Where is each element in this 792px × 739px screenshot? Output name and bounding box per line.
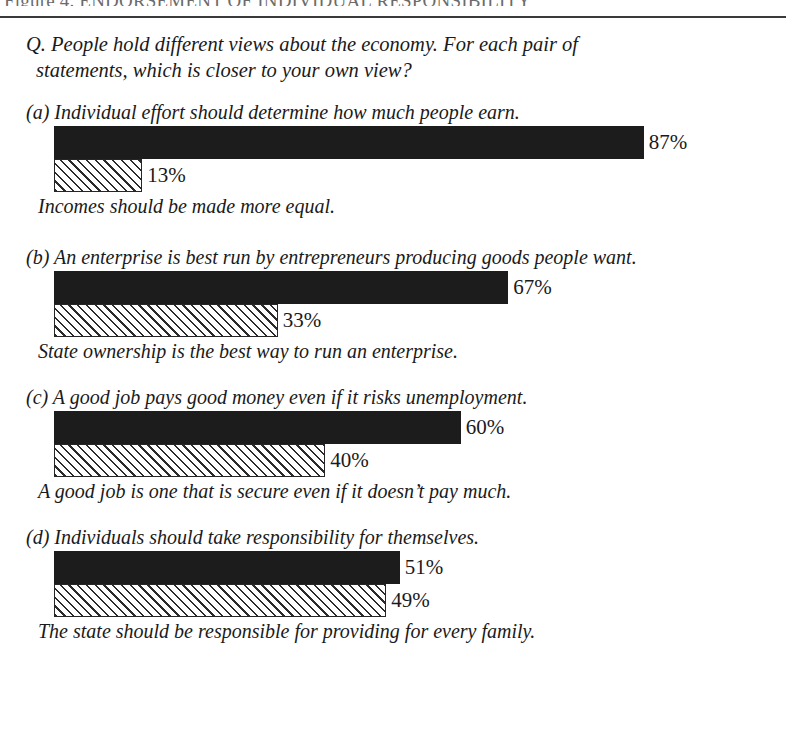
panel-c-bottom-bar-row: 40% xyxy=(54,444,369,477)
panel-a-top-bar xyxy=(54,126,644,159)
panel-c: (c) A good job pays good money even if i… xyxy=(26,385,786,503)
panel-c-bar-chart: 60% 40% xyxy=(54,411,786,479)
title-divider-rule xyxy=(0,16,786,18)
panel-a-bottom-statement: Incomes should be made more equal. xyxy=(26,194,786,218)
panel-a-top-bar-label: 87% xyxy=(644,132,688,153)
panel-d: (d) Individuals should take responsibili… xyxy=(26,525,786,643)
panel-c-top-bar-row: 60% xyxy=(54,411,504,444)
panel-b-top-bar xyxy=(54,271,508,304)
panel-a-bottom-bar-label: 13% xyxy=(142,165,186,186)
panel-a-top-bar-row: 87% xyxy=(54,126,687,159)
question-line-2: statements, which is closer to your own … xyxy=(26,57,726,83)
panel-a-bar-chart: 87% 13% xyxy=(54,126,786,194)
panel-b-bottom-bar xyxy=(54,304,278,337)
panel-d-top-bar xyxy=(54,551,400,584)
panel-d-top-bar-label: 51% xyxy=(400,557,444,578)
panel-a-bottom-bar xyxy=(54,159,142,192)
panel-a: (a) Individual effort should determine h… xyxy=(26,100,786,218)
panel-b-bottom-statement: State ownership is the best way to run a… xyxy=(26,339,786,363)
panel-b: (b) An enterprise is best run by entrepr… xyxy=(26,245,786,363)
panel-d-bottom-statement: The state should be responsible for prov… xyxy=(26,619,786,643)
panel-c-bottom-bar-label: 40% xyxy=(325,450,369,471)
panel-b-bottom-bar-row: 33% xyxy=(54,304,321,337)
panel-d-top-bar-row: 51% xyxy=(54,551,443,584)
question-line-1: Q. People hold different views about the… xyxy=(26,33,578,55)
survey-question: Q. People hold different views about the… xyxy=(26,31,726,83)
panel-d-bar-chart: 51% 49% xyxy=(54,551,786,619)
panel-b-bottom-bar-label: 33% xyxy=(278,310,322,331)
panel-d-top-statement: (d) Individuals should take responsibili… xyxy=(26,525,786,549)
panel-c-bottom-statement: A good job is one that is secure even if… xyxy=(26,479,786,503)
panel-a-bottom-bar-row: 13% xyxy=(54,159,186,192)
panel-b-top-bar-row: 67% xyxy=(54,271,552,304)
panel-d-bottom-bar-row: 49% xyxy=(54,584,430,617)
panel-a-top-statement: (a) Individual effort should determine h… xyxy=(26,100,786,124)
panel-b-bar-chart: 67% 33% xyxy=(54,271,786,339)
panel-c-top-bar xyxy=(54,411,461,444)
panel-c-bottom-bar xyxy=(54,444,325,477)
panel-b-top-statement: (b) An enterprise is best run by entrepr… xyxy=(26,245,786,269)
panel-c-top-bar-label: 60% xyxy=(461,417,505,438)
panel-d-bottom-bar xyxy=(54,584,386,617)
figure-title: Figure 4. ENDORSEMENT OF INDIVIDUAL RESP… xyxy=(4,0,788,6)
panel-b-top-bar-label: 67% xyxy=(508,277,552,298)
panel-c-top-statement: (c) A good job pays good money even if i… xyxy=(26,385,786,409)
panel-d-bottom-bar-label: 49% xyxy=(386,590,430,611)
